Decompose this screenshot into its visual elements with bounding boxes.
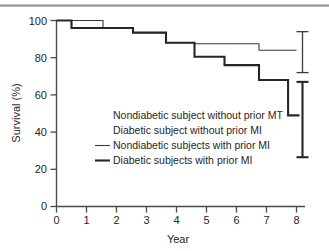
y-tick-label-20: 20 <box>35 163 47 175</box>
y-axis-ticks <box>51 21 57 207</box>
x-tick-label-4: 4 <box>173 214 179 226</box>
chart-legend: Nondiabetic subject without prior MT Dia… <box>95 109 283 166</box>
x-tick-label-1: 1 <box>83 214 89 226</box>
x-tick-label-3: 3 <box>143 214 149 226</box>
figure-container: 0 20 40 60 80 100 0 1 2 3 4 5 6 <box>0 0 329 251</box>
errorbar-nondiabetic-prior-mi <box>297 32 309 73</box>
x-axis-tick-labels: 0 1 2 3 4 5 6 7 8 <box>53 214 299 226</box>
y-tick-label-80: 80 <box>35 52 47 64</box>
x-tick-label-8: 8 <box>293 214 299 226</box>
survival-chart: 0 20 40 60 80 100 0 1 2 3 4 5 6 <box>0 0 329 251</box>
y-tick-label-0: 0 <box>41 200 47 212</box>
y-tick-label-40: 40 <box>35 126 47 138</box>
legend-label-0: Nondiabetic subject without prior MT <box>113 109 283 121</box>
x-tick-label-5: 5 <box>203 214 209 226</box>
y-tick-label-100: 100 <box>29 15 47 27</box>
x-tick-label-6: 6 <box>233 214 239 226</box>
legend-label-2: Nondiabetic subjects with prior MI <box>113 139 270 151</box>
x-tick-label-7: 7 <box>263 214 269 226</box>
legend-label-3: Diabetic subjects with prior MI <box>113 154 252 166</box>
series-line-nondiabetic-prior-mi <box>57 21 297 51</box>
legend-label-1: Diabetic subject without prior MI <box>113 124 262 136</box>
y-axis-title: Survival (%) <box>10 83 22 142</box>
x-axis-title: Year <box>167 233 190 245</box>
x-axis-ticks <box>57 207 297 213</box>
x-tick-label-2: 2 <box>113 214 119 226</box>
y-tick-label-60: 60 <box>35 89 47 101</box>
y-axis-tick-labels: 0 20 40 60 80 100 <box>29 15 47 212</box>
series-line-diabetic-prior-mi <box>57 21 300 116</box>
errorbar-diabetic-prior-mi <box>297 82 309 157</box>
x-tick-label-0: 0 <box>53 214 59 226</box>
